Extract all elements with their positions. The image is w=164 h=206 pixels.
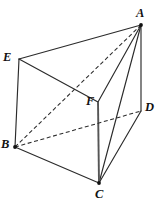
vertex-label-b: B xyxy=(1,138,9,151)
edge-eb xyxy=(15,59,19,147)
vertex-dot-a xyxy=(139,23,143,27)
edge-ea xyxy=(19,25,141,59)
edge-fa xyxy=(98,25,141,102)
geometry-figure: AEBCDF xyxy=(0,0,164,206)
edge-bd xyxy=(15,111,141,147)
vertex-label-a: A xyxy=(136,7,144,20)
vertex-label-f: F xyxy=(86,95,94,108)
edge-cd xyxy=(99,111,141,183)
edges-layer xyxy=(15,25,141,183)
edge-ba xyxy=(15,25,141,147)
vertex-label-c: C xyxy=(95,188,103,201)
edge-bc xyxy=(15,147,99,183)
vertex-dots-layer xyxy=(13,23,143,185)
prism-drawing-canvas xyxy=(0,0,164,206)
edge-fc xyxy=(98,102,99,183)
vertex-dot-b xyxy=(13,145,17,149)
vertex-label-d: D xyxy=(145,101,154,114)
vertex-label-e: E xyxy=(3,51,11,64)
vertex-dot-c xyxy=(97,181,101,185)
edge-ac xyxy=(99,25,141,183)
